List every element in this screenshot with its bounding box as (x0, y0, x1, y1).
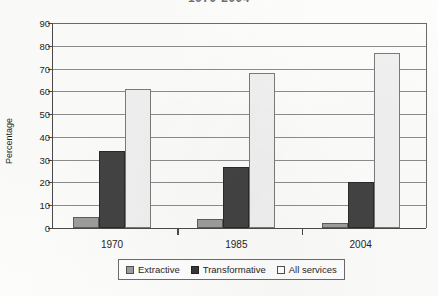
gridline (53, 69, 426, 70)
legend-swatch-extractive (126, 266, 134, 274)
bar-services-1970 (125, 89, 151, 228)
legend-label-transformative: Transformative (203, 264, 266, 275)
x-tick-label-1985: 1985 (225, 239, 247, 250)
bar-transformative-1985 (223, 167, 249, 229)
chart-title: 1970-2004 (0, 0, 438, 5)
legend-item-extractive[interactable]: Extractive (126, 264, 180, 275)
y-tick-label: 60 (39, 86, 50, 97)
legend-label-extractive: Extractive (138, 264, 180, 275)
bar-extractive-2004 (322, 223, 348, 228)
chart-title-clip: 1970-2004 (0, 0, 438, 7)
legend-swatch-transformative (191, 266, 199, 274)
x-axis-separator (302, 228, 303, 235)
bar-extractive-1985 (197, 219, 223, 228)
y-tick-label: 20 (39, 177, 50, 188)
gridline (53, 114, 426, 115)
y-tick-label: 70 (39, 63, 50, 74)
y-tick-label: 10 (39, 200, 50, 211)
x-axis-separator (177, 228, 178, 235)
gridline (53, 137, 426, 138)
bar-transformative-1970 (99, 151, 125, 228)
x-tick-label-1970: 1970 (101, 239, 123, 250)
bar-transformative-2004 (348, 182, 374, 228)
bar-services-2004 (374, 53, 400, 228)
gridline (53, 46, 426, 47)
plot-area: 0102030405060708090 197019852004 (52, 23, 426, 229)
legend-swatch-services (277, 266, 285, 274)
gridline (53, 91, 426, 92)
y-tick-label: 90 (39, 18, 50, 29)
y-tick-label: 30 (39, 154, 50, 165)
legend-item-services[interactable]: All services (277, 264, 337, 275)
chart-canvas: 1970-2004 Percentage 0102030405060708090… (0, 0, 438, 296)
legend-label-services: All services (289, 264, 337, 275)
y-axis-title-text: Percentage (4, 150, 14, 164)
legend-item-transformative[interactable]: Transformative (191, 264, 266, 275)
plot-right-border (426, 23, 427, 228)
y-tick-label: 50 (39, 109, 50, 120)
y-tick-label: 0 (45, 223, 50, 234)
gridline (53, 23, 426, 24)
bar-extractive-1970 (73, 217, 99, 228)
x-tick-label-2004: 2004 (350, 239, 372, 250)
bar-services-1985 (249, 73, 275, 228)
y-axis-title: Percentage (2, 88, 16, 178)
chart-legend: ExtractiveTransformativeAll services (118, 259, 345, 280)
y-tick-label: 80 (39, 40, 50, 51)
y-tick-label: 40 (39, 131, 50, 142)
